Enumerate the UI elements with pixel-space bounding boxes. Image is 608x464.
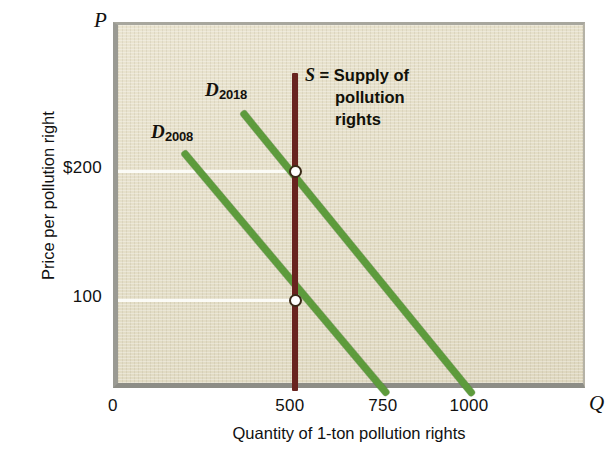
supply-annotation-line2: pollution <box>305 86 480 108</box>
supply-symbol: S <box>305 65 315 85</box>
x-tick-750: 750 <box>353 396 413 416</box>
demand-2008-label-sub: 2008 <box>165 129 193 144</box>
supply-annotation-line3: rights <box>305 108 480 130</box>
y-tick-200: $200 <box>24 158 102 178</box>
price-100-guide <box>118 299 298 302</box>
x-axis-symbol: Q <box>589 391 604 416</box>
demand-curve-2008 <box>180 149 390 397</box>
supply-annotation-line1: = Supply of <box>315 66 409 84</box>
x-axis-title: Quantity of 1-ton pollution rights <box>113 424 585 443</box>
equilibrium-point-2008 <box>289 294 302 307</box>
y-axis-title: Price per pollution right <box>39 76 58 316</box>
x-tick-1000: 1000 <box>436 396 502 416</box>
demand-2018-label-sub: 2018 <box>219 87 247 102</box>
y-tick-100: 100 <box>24 287 102 307</box>
demand-2008-label: D2008 <box>151 121 193 143</box>
x-tick-0: 0 <box>83 396 143 416</box>
price-200-guide <box>118 170 298 173</box>
demand-2008-label-main: D <box>151 121 165 142</box>
chart-canvas: P Q $200 100 Price per pollution right D… <box>0 0 608 464</box>
demand-2018-label: D2018 <box>205 79 247 101</box>
equilibrium-point-2018 <box>289 165 302 178</box>
x-tick-500: 500 <box>260 396 320 416</box>
y-axis-symbol: P <box>94 8 107 33</box>
supply-annotation: S = Supply of pollution rights <box>305 64 480 130</box>
demand-2018-label-main: D <box>205 79 219 100</box>
supply-curve <box>292 73 298 391</box>
